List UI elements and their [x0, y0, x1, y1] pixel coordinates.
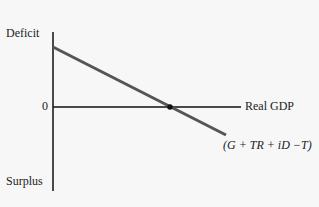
- zero-label: 0: [42, 99, 48, 114]
- deficit-label: Deficit: [6, 26, 39, 41]
- budget-deficit-line: [53, 47, 226, 135]
- surplus-label: Surplus: [6, 174, 43, 189]
- real-gdp-label: Real GDP: [245, 99, 294, 114]
- line-equation-label: (G + TR + iD −T): [223, 138, 312, 153]
- intersection-point: [167, 104, 173, 110]
